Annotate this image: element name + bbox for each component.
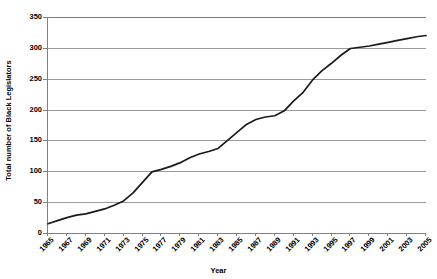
y-tick-label: 200 [14, 106, 42, 114]
x-tick-label: 1979 [170, 236, 187, 253]
x-tick-label: 1969 [76, 236, 93, 253]
plot-area [47, 17, 426, 234]
chart-container: Total number of Black Legislators 050100… [0, 0, 437, 279]
y-tick-label: 300 [14, 44, 42, 52]
x-tick-label: 1977 [152, 236, 169, 253]
line-path [48, 36, 426, 224]
x-tick-label: 1997 [341, 236, 358, 253]
x-tick-label: 1987 [246, 236, 263, 253]
x-tick-label: 2003 [397, 236, 414, 253]
y-axis-tick-labels: 050100150200250300350 [14, 0, 45, 279]
x-tick-label: 1971 [95, 236, 112, 253]
x-tick-label: 1981 [189, 236, 206, 253]
y-tick-label: 50 [14, 198, 42, 206]
y-tick-label: 100 [14, 168, 42, 176]
x-tick-label: 1975 [133, 236, 150, 253]
x-tick-label: 1983 [208, 236, 225, 253]
x-tick-label: 1991 [284, 236, 301, 253]
x-axis-tick-labels: 1965196719691971197319751977197919811983… [47, 236, 425, 270]
x-tick-label: 1993 [303, 236, 320, 253]
y-tick-label: 250 [14, 75, 42, 83]
y-tick-label: 0 [14, 229, 42, 237]
y-tick-label: 150 [14, 137, 42, 145]
x-tick-label: 2005 [416, 236, 433, 253]
x-tick-label: 1989 [265, 236, 282, 253]
x-tick-label: 1985 [227, 236, 244, 253]
x-axis-title: Year [0, 266, 437, 275]
x-tick-label: 1973 [114, 236, 131, 253]
x-tick-label: 2001 [378, 236, 395, 253]
x-tick-label: 1999 [359, 236, 376, 253]
x-tick-label: 1967 [57, 236, 74, 253]
y-tick-label: 350 [14, 13, 42, 21]
data-series-line [48, 17, 426, 233]
y-axis-title-label: Total number of Black Legislators [4, 60, 13, 180]
x-tick-label: 1995 [322, 236, 339, 253]
